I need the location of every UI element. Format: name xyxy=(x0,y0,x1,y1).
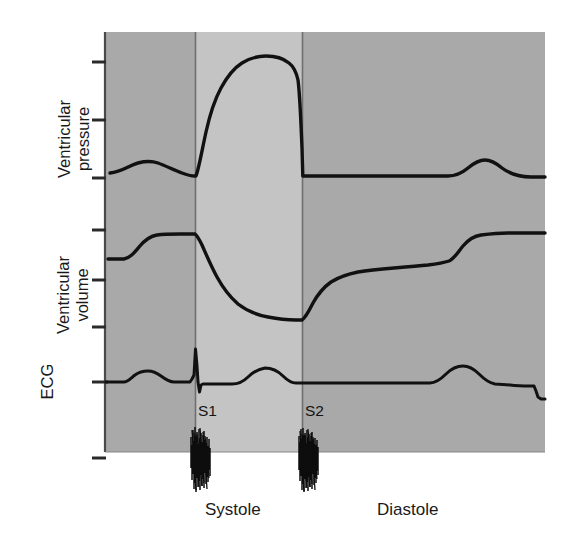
cardiac-cycle-figure: Ventricular pressure Ventricular volume … xyxy=(0,0,569,551)
s2-label: S2 xyxy=(305,402,324,420)
ventricular-pressure-label-line2: pressure xyxy=(74,59,93,219)
ventricular-pressure-label-line1: Ventricular xyxy=(55,100,73,178)
ventricular-volume-label-line2: volume xyxy=(73,225,92,365)
systole-band xyxy=(195,32,302,452)
ventricular-volume-label-line1: Ventricular xyxy=(54,256,72,334)
s1-label: S1 xyxy=(198,402,217,420)
ventricular-pressure-label: Ventricular pressure xyxy=(55,59,93,219)
diastole-band-right xyxy=(302,32,545,452)
diastole-label: Diastole xyxy=(377,500,438,520)
diastole-band-left xyxy=(105,32,195,452)
ventricular-volume-label: Ventricular volume xyxy=(54,225,92,365)
ecg-label-text: ECG xyxy=(38,364,56,400)
ecg-label: ECG xyxy=(38,347,57,417)
systole-label: Systole xyxy=(205,500,261,520)
